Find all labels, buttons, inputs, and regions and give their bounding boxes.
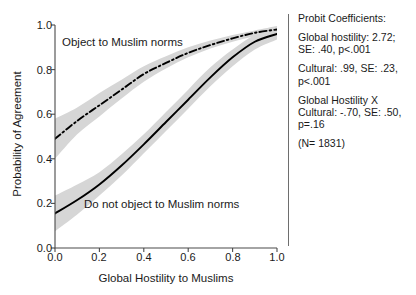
annotation-object-to-muslim-norms: Object to Muslim norms: [62, 36, 183, 48]
stats-heading: Probit Coefficients:: [298, 12, 414, 24]
panel-divider: [288, 14, 289, 246]
x-axis-label: Global Hostility to Muslims: [55, 272, 277, 284]
stats-line-interaction: Global Hostility X Cultural: -.70, SE: .…: [298, 94, 414, 131]
stats-line-sample-size: (N= 1831): [298, 137, 414, 149]
chart-figure: 0.0 0.2 0.4 0.6 0.8 1.0 0.0 0.2 0.4 0.6 …: [0, 0, 416, 295]
y-tick-5: 1.0: [22, 20, 52, 31]
x-tick-0: 0.0: [38, 252, 72, 263]
y-axis-label: Probability of Agreement: [11, 54, 23, 214]
x-tick-5: 1.0: [260, 252, 294, 263]
y-tick-2: 0.4: [22, 154, 52, 165]
y-tick-1: 0.2: [22, 198, 52, 209]
x-tick-3: 0.6: [171, 252, 205, 263]
annotation-do-not-object-to-muslim-norms: Do not object to Muslim norms: [84, 198, 239, 210]
stats-line-cultural: Cultural: .99, SE: .23, p<.001: [298, 62, 414, 87]
x-tick-1: 0.2: [82, 252, 116, 263]
x-axis-tick-labels: 0.0 0.2 0.4 0.6 0.8 1.0: [0, 252, 288, 266]
x-tick-2: 0.4: [127, 252, 161, 263]
plot-area: 0.0 0.2 0.4 0.6 0.8 1.0 0.0 0.2 0.4 0.6 …: [0, 0, 288, 295]
y-tick-4: 0.8: [22, 65, 52, 76]
x-tick-4: 0.8: [216, 252, 250, 263]
stats-panel: Probit Coefficients: Global hostility: 2…: [298, 12, 414, 156]
stats-line-global-hostility: Global hostility: 2.72; SE: .40, p<.001: [298, 31, 414, 56]
y-tick-3: 0.6: [22, 109, 52, 120]
